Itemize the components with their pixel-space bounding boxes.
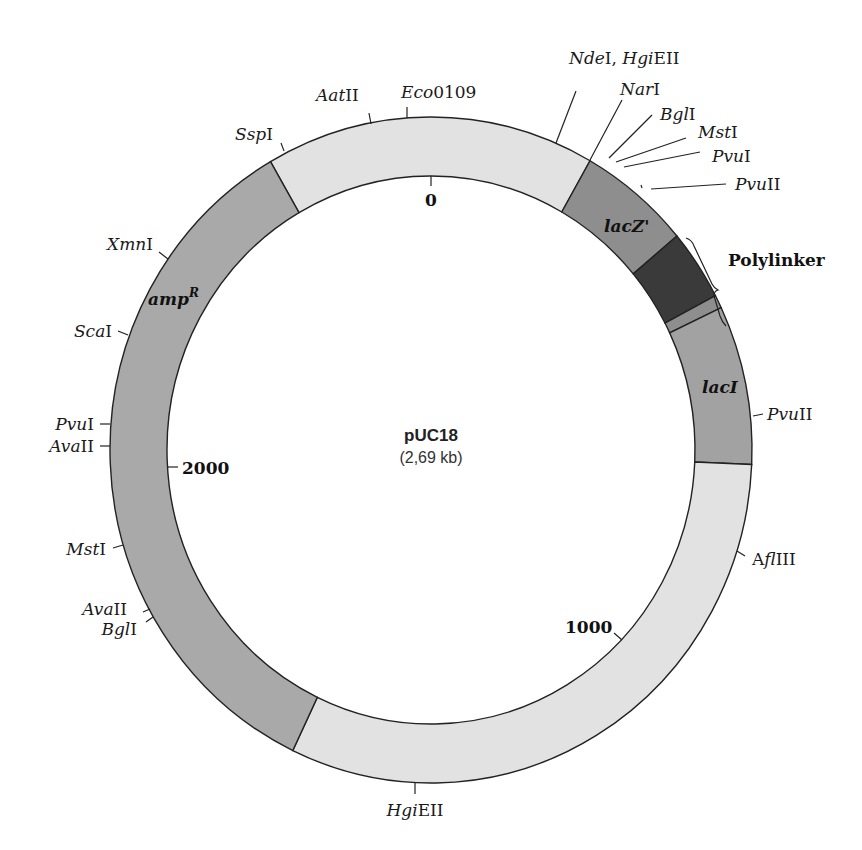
site-label-aflIII: AflIII	[751, 549, 796, 569]
plasmid-size: (2,69 kb)	[399, 449, 462, 466]
site-label-xmnI: XmnI	[105, 234, 153, 254]
plasmid-name: pUC18	[404, 426, 458, 445]
gene-label-lacI: lacI	[702, 377, 739, 397]
site-label-eco0109: Eco0109	[400, 82, 476, 102]
scale-tick-1000	[614, 633, 622, 640]
site-label-bglI-left: BglI	[100, 619, 137, 639]
ring-segment-backbone-bottom	[293, 462, 752, 783]
site-label-pvuII-top: PvuII	[734, 174, 780, 194]
site-label-bglI-top: BglI	[659, 104, 696, 124]
site-label-avaII-left-upper: AvaII	[47, 436, 94, 456]
site-label-aatII: AatII	[314, 85, 359, 105]
scale-label-0: 0	[425, 190, 437, 210]
site-label-mstI-top: MstI	[697, 122, 738, 142]
site-label-scaI: ScaI	[74, 321, 112, 341]
scale-label-2000: 2000	[182, 458, 229, 478]
site-label-pvuII-right: PvuII	[766, 404, 812, 424]
site-label-avaII-left-lower: AvaII	[80, 599, 127, 619]
polylinker-label: Polylinker	[728, 250, 826, 270]
site-label-pvuI-top: PvuI	[711, 146, 751, 166]
gene-label-lacZ: lacZ'	[604, 216, 649, 236]
site-label-pvuI-left: PvuI	[54, 414, 94, 434]
scale-label-1000: 1000	[565, 617, 612, 637]
site-label-sspI: SspI	[235, 124, 273, 144]
site-label-hgiEII-bottom: HgiEII	[386, 800, 444, 820]
site-label-ndeI-hgiEII: NdeI, HgiEII	[568, 48, 679, 68]
site-label-narI: NarI	[619, 79, 660, 99]
plasmid-map: pUC18 (2,69 kb) lacZ' lacI ampR Polylink…	[0, 0, 862, 850]
site-label-mstI-left: MstI	[65, 539, 106, 559]
